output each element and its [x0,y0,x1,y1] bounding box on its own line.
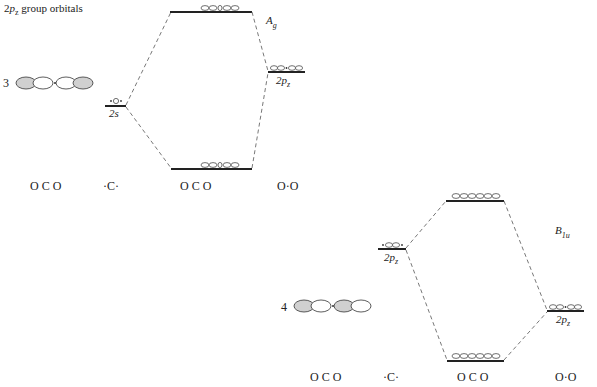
correlation-line [126,12,171,105]
level-label-2pz-right-bottom: 2pz [556,313,571,328]
diagram-b1u: 4 2pz [281,194,584,384]
figure-title: 2pz group orbitals [4,2,83,17]
group-orbital-index-3: 3 [3,76,9,90]
label-oo: O·O [277,179,299,193]
label-oo: O·O [555,370,577,384]
level-label-2pz-right-top: 2pz [276,74,291,89]
correlation-line [504,201,547,310]
level-oco-antibonding-ag [170,5,252,12]
level-oco-antibonding-b1u [446,194,504,201]
group-orbital-index-4: 4 [281,300,287,314]
correlation-line [406,201,446,248]
level-label-2s: 2s [109,107,119,119]
level-c-2s: 2s [105,98,126,119]
label-oco-molecule: O C O [180,179,212,193]
symmetry-label-b1u: B1u [555,224,570,240]
level-oo-2pz-ag: 2pz [268,66,305,89]
correlation-line [126,107,171,168]
symmetry-label-ag: Ag [265,14,277,30]
mo-diagram-canvas: 2pz group orbitals 3 2s [0,0,597,387]
label-oco-molecule: O C O [457,370,489,384]
correlation-line [406,250,447,360]
group-orbital-4-icon [294,300,371,312]
label-oco-group: O C O [30,179,62,193]
label-oco-group: O C O [310,370,342,384]
label-carbon: ·C· [383,370,399,384]
level-label-2pz-left-bottom: 2pz [384,251,399,266]
level-oco-bonding-b1u [447,354,504,361]
diagram-ag: 3 2s [3,5,305,193]
correlation-line [504,312,547,360]
level-oco-bonding-ag [171,162,252,169]
level-c-2pz: 2pz [378,243,406,266]
label-carbon: ·C· [103,179,119,193]
level-oo-2pz-b1u: 2pz [547,305,584,328]
group-orbital-3-icon [16,77,93,89]
correlation-line [252,73,268,168]
